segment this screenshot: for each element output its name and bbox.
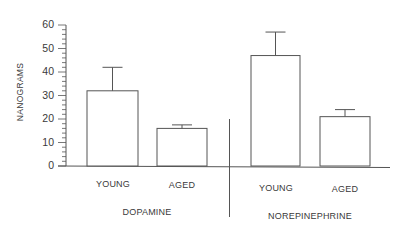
y-tick-label: 30 xyxy=(30,89,54,101)
bar-label-dopamine-aged: AGED xyxy=(169,180,195,190)
bar-norepinephrine-young xyxy=(251,56,300,166)
bar-norepinephrine-aged xyxy=(320,117,370,166)
y-tick-label: 0 xyxy=(30,159,54,171)
y-axis-label: NANOGRAMS xyxy=(15,63,25,121)
bar-label-norepinephrine-young: YOUNG xyxy=(259,183,293,193)
group-label-dopamine: DOPAMINE xyxy=(123,207,172,217)
y-tick-label: 50 xyxy=(30,42,54,54)
bar-dopamine-aged xyxy=(157,128,207,166)
bars xyxy=(87,32,370,166)
bar-chart xyxy=(0,0,405,233)
bar-label-norepinephrine-aged: AGED xyxy=(332,184,358,194)
bar-dopamine-young xyxy=(87,91,138,166)
bar-label-dopamine-young: YOUNG xyxy=(96,179,130,189)
y-tick-label: 40 xyxy=(30,65,54,77)
y-tick-label: 60 xyxy=(30,18,54,30)
y-tick-label: 20 xyxy=(30,112,54,124)
y-tick-label: 10 xyxy=(30,136,54,148)
group-label-norepinephrine: NOREPINEPHRINE xyxy=(268,211,352,221)
